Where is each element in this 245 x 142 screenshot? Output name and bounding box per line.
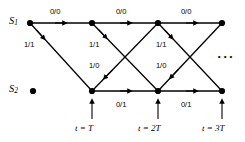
- edge-group-diagonal-down: [30, 23, 222, 91]
- time-tick-group: [92, 101, 222, 119]
- trellis-node-bottom-3: [219, 88, 225, 94]
- trellis-node-bottom-2: [155, 88, 161, 94]
- edge-label-one-zero-1: 1/0: [156, 62, 166, 70]
- edge-label-bottom-0: 0/1: [116, 101, 126, 109]
- trellis-node-top-3: [219, 20, 225, 26]
- ellipsis-icon: ···: [217, 50, 235, 63]
- edge-group-diagonal-up: [92, 23, 222, 91]
- time-label-3: t = 3T: [202, 124, 225, 133]
- trellis-node-bottom-start: [30, 88, 36, 94]
- edge-up-0-arrow: [105, 70, 113, 78]
- edge-label-top-0: 0/0: [50, 8, 60, 16]
- edge-label-bottom-1: 0/1: [181, 101, 191, 109]
- edge-label-one-one-0: 1/1: [24, 41, 34, 49]
- trellis-node-top-2: [155, 20, 161, 26]
- trellis-diagram-figure: S1 S2 0/0 0/0 0/0 1/1 1/1 1/1 1/0 1/0 0/…: [0, 0, 245, 142]
- trellis-node-bottom-1: [89, 88, 95, 94]
- edge-down-1-arrow: [99, 30, 106, 38]
- edge-up-1-arrow: [171, 70, 179, 78]
- state-label-s1: S1: [9, 16, 18, 27]
- edge-label-one-one-1: 1/1: [89, 41, 99, 49]
- trellis-node-top-0: [27, 20, 33, 26]
- edge-label-top-2: 0/0: [181, 8, 191, 16]
- trellis-graph-canvas: [0, 0, 245, 142]
- trellis-node-top-1: [89, 20, 95, 26]
- time-label-1: t = T: [75, 124, 93, 133]
- time-label-2: t = 2T: [138, 124, 161, 133]
- edge-label-one-one-2: 1/1: [156, 41, 166, 49]
- edge-label-top-1: 0/0: [116, 8, 126, 16]
- edge-down-0-arrow: [37, 30, 44, 38]
- edge-label-one-zero-0: 1/0: [89, 62, 99, 70]
- state-label-s2: S2: [9, 84, 18, 95]
- edge-down-2-arrow: [165, 30, 172, 38]
